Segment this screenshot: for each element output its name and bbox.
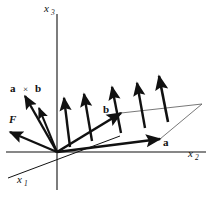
vector-a-label: a [163,136,169,148]
vector-f-label: F [8,113,17,125]
cross-arrow-3 [64,98,70,147]
axis-x1-line [8,136,120,178]
axis-label-x2-name: x [187,147,193,159]
cross-arrow-1 [25,96,57,152]
cross-arrow-5 [112,87,121,133]
diagram-canvas: x 3 x 2 x 1 a b F a × b [0,0,210,198]
cross-arrow-6 [137,83,145,128]
axis-label-x2-subscript: 2 [195,153,199,162]
axis-label-x1: x 1 [16,173,28,188]
cross-arrow-7 [159,76,168,122]
vector-a-arrow [57,139,160,152]
axis-label-x1-name: x [16,173,22,185]
axis-label-x3-name: x [43,2,49,14]
cross-product-operator-icon: × [23,84,28,94]
axis-label-x2: x 2 [187,147,199,162]
cross-product-label: a × b [10,82,41,94]
axis-label-x3-subscript: 3 [50,8,55,17]
vector-b-label: b [103,103,109,115]
vector-diagram-figure: x 3 x 2 x 1 a b F a × b [0,0,210,198]
cross-product-label-a: a [10,82,16,94]
axis-label-x3: x 3 [43,2,55,17]
axis-label-x1-subscript: 1 [24,179,28,188]
cross-product-label-b: b [35,82,41,94]
parallelogram-outline [57,104,202,152]
axis-group [6,14,206,190]
